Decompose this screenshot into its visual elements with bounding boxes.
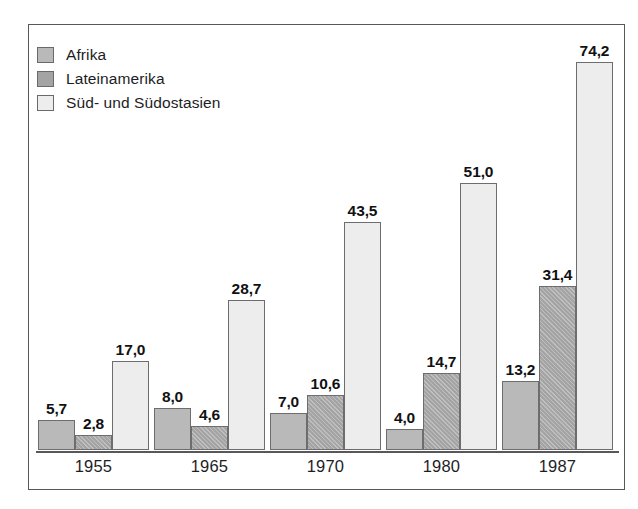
x-tick-label-1955: 1955 xyxy=(38,457,149,476)
bar-value-1970-lateinamerika: 10,6 xyxy=(311,375,341,393)
plot-area: 5,7 2,8 17,0 1955 8,0 xyxy=(29,25,624,489)
bar-value-1955-suedostasien: 17,0 xyxy=(116,341,146,359)
bar-1970-suedostasien[interactable]: 43,5 xyxy=(344,222,381,450)
bar-slot-1980-suedostasien: 51,0 xyxy=(460,60,497,450)
bar-1965-lateinamerika[interactable]: 4,6 xyxy=(191,426,228,450)
bar-1980-lateinamerika[interactable]: 14,7 xyxy=(423,373,460,450)
bar-value-1987-suedostasien: 74,2 xyxy=(580,42,610,60)
bar-value-1955-lateinamerika: 2,8 xyxy=(83,415,104,433)
bar-value-1955-afrika: 5,7 xyxy=(46,400,67,418)
bar-1970-lateinamerika[interactable]: 10,6 xyxy=(307,395,344,450)
chart-frame: Afrika Lateinamerika Süd- und Südostasie… xyxy=(28,24,625,490)
bar-1987-afrika[interactable]: 13,2 xyxy=(502,381,539,450)
bar-value-1987-afrika: 13,2 xyxy=(506,361,536,379)
bar-1970-afrika[interactable]: 7,0 xyxy=(270,413,307,450)
bar-slot-1980-lateinamerika: 14,7 xyxy=(423,60,460,450)
x-tick-label-1987: 1987 xyxy=(502,457,613,476)
bar-value-1965-lateinamerika: 4,6 xyxy=(199,406,220,424)
x-axis-baseline xyxy=(36,451,619,453)
bar-1955-lateinamerika[interactable]: 2,8 xyxy=(75,435,112,450)
bar-1987-lateinamerika[interactable]: 31,4 xyxy=(539,286,576,450)
bar-1965-afrika[interactable]: 8,0 xyxy=(154,408,191,450)
bar-1955-suedostasien[interactable]: 17,0 xyxy=(112,361,149,450)
bar-value-1980-afrika: 4,0 xyxy=(394,409,415,427)
x-tick-label-1980: 1980 xyxy=(386,457,497,476)
bar-slot-1987-suedostasien: 74,2 xyxy=(576,60,613,450)
bar-1980-suedostasien[interactable]: 51,0 xyxy=(460,183,497,450)
bar-1987-suedostasien[interactable]: 74,2 xyxy=(576,62,613,450)
bar-value-1965-suedostasien: 28,7 xyxy=(232,280,262,298)
bar-slot-1965-suedostasien: 28,7 xyxy=(228,60,265,450)
x-tick-label-1965: 1965 xyxy=(154,457,265,476)
bar-value-1970-afrika: 7,0 xyxy=(278,393,299,411)
bar-slot-1965-lateinamerika: 4,6 xyxy=(191,60,228,450)
bar-slot-1970-lateinamerika: 10,6 xyxy=(307,60,344,450)
bar-value-1980-lateinamerika: 14,7 xyxy=(427,353,457,371)
bar-value-1987-lateinamerika: 31,4 xyxy=(543,266,573,284)
bar-slot-1955-afrika: 5,7 xyxy=(38,60,75,450)
bar-slot-1980-afrika: 4,0 xyxy=(386,60,423,450)
bar-group-1965: 8,0 4,6 28,7 xyxy=(154,60,265,450)
bar-1955-afrika[interactable]: 5,7 xyxy=(38,420,75,450)
bar-group-1955: 5,7 2,8 17,0 xyxy=(38,60,149,450)
bar-value-1970-suedostasien: 43,5 xyxy=(348,202,378,220)
bar-slot-1955-suedostasien: 17,0 xyxy=(112,60,149,450)
bar-slot-1987-lateinamerika: 31,4 xyxy=(539,60,576,450)
bar-group-1980: 4,0 14,7 51,0 xyxy=(386,60,497,450)
bar-group-1987: 13,2 31,4 74,2 xyxy=(502,60,613,450)
bar-slot-1970-suedostasien: 43,5 xyxy=(344,60,381,450)
bar-slot-1955-lateinamerika: 2,8 xyxy=(75,60,112,450)
bar-value-1980-suedostasien: 51,0 xyxy=(464,163,494,181)
bar-value-1965-afrika: 8,0 xyxy=(162,388,183,406)
bar-1965-suedostasien[interactable]: 28,7 xyxy=(228,300,265,450)
bar-slot-1965-afrika: 8,0 xyxy=(154,60,191,450)
bar-1980-afrika[interactable]: 4,0 xyxy=(386,429,423,450)
bar-slot-1987-afrika: 13,2 xyxy=(502,60,539,450)
x-tick-label-1970: 1970 xyxy=(270,457,381,476)
bar-group-1970: 7,0 10,6 43,5 xyxy=(270,60,381,450)
bar-slot-1970-afrika: 7,0 xyxy=(270,60,307,450)
